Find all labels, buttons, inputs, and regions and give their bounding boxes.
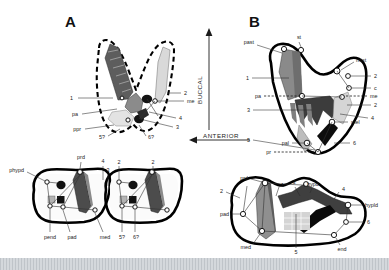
b-lower-node-med xyxy=(259,228,264,233)
b-upper-node-st xyxy=(298,47,303,52)
figure-canvas: A B BUCCAL ANTERIOR xyxy=(0,0,389,270)
a-lower-left-square-black xyxy=(57,196,65,204)
label-b-u-5: 5 xyxy=(247,137,250,143)
anterior-label: ANTERIOR xyxy=(203,132,239,139)
label-b-u-4: 4 xyxy=(371,115,374,121)
label-b-u-mtst: mtst xyxy=(356,57,367,63)
b-lower-node-prd xyxy=(262,180,268,186)
label-b-l-6: 6 xyxy=(367,219,370,225)
b-lower-node-end xyxy=(331,232,336,237)
label-a-l-6q: 6? xyxy=(133,234,139,240)
a-lower-left-node-pad xyxy=(61,205,65,209)
a-lower-left-node-phypd xyxy=(45,180,49,184)
panel-a-lower-right-crown xyxy=(105,169,182,223)
label-b-u-pr: pr xyxy=(266,149,271,155)
a-lower-right-cuspule-dark xyxy=(128,181,137,189)
label-a-u-me: me xyxy=(187,98,195,104)
panel-a-lower-left-crown xyxy=(33,169,110,223)
a-lower-left-node-med xyxy=(93,208,97,212)
label-b-l-med: med xyxy=(241,244,252,250)
label-a-l-pend: pend xyxy=(44,234,56,240)
label-b-u-c: c xyxy=(374,85,377,91)
label-a-l-2b: 2 xyxy=(152,159,155,165)
label-b-u-2b: 2 xyxy=(374,102,377,108)
label-a-u-4: 4 xyxy=(179,115,182,121)
label-a-l-pad: pad xyxy=(68,234,77,240)
b-lower-node-6 xyxy=(344,220,349,225)
label-b-u-me: me xyxy=(370,93,378,99)
label-a-l-prd: prd xyxy=(77,154,85,160)
a-lower-left-node-prd xyxy=(78,170,83,175)
label-a-u-6q: 6? xyxy=(148,134,154,140)
label-b-u-3: 3 xyxy=(247,107,250,113)
b-upper-node-past xyxy=(281,46,286,51)
label-a-u-ppr: ppr xyxy=(73,126,81,132)
label-a-l-med: med xyxy=(100,234,111,240)
label-a-l-phypd: phypd xyxy=(9,167,24,173)
label-a-u-2: 2 xyxy=(184,90,187,96)
label-b-l-pad: pad xyxy=(220,211,229,217)
figure-svg: A B BUCCAL ANTERIOR xyxy=(0,0,389,270)
b-upper-node-2a xyxy=(346,74,351,79)
b-lower-basin-shade xyxy=(284,212,310,230)
label-b-l-hypld: hypld xyxy=(365,202,378,208)
label-b-u-6: 6 xyxy=(353,140,356,146)
label-b-l-end: end xyxy=(338,246,347,252)
label-b-l-5: 5 xyxy=(295,249,298,255)
label-b-l-3: 3 xyxy=(293,179,296,185)
a-lower-right-node-3 xyxy=(133,205,137,209)
a-lower-left-node-pend xyxy=(48,204,52,208)
label-a-l-5q: 5? xyxy=(119,234,125,240)
label-a-l-3: 3 xyxy=(107,167,110,173)
label-a-u-pa: pa xyxy=(72,111,78,117)
buccal-label: BUCCAL xyxy=(196,76,203,104)
b-lower-node-pad xyxy=(240,211,245,216)
label-a-l-2a: 2 xyxy=(118,159,121,165)
label-b-u-1: 1 xyxy=(246,75,249,81)
label-b-l-1: 1 xyxy=(281,182,284,188)
footer-bar xyxy=(0,258,389,270)
panel-letter-b: B xyxy=(249,13,260,30)
a-upper-node-pa xyxy=(120,96,124,100)
a-lower-right-node-4 xyxy=(150,170,155,175)
label-a-u-1: 1 xyxy=(70,95,73,101)
a-lower-right-node-1 xyxy=(117,180,121,184)
label-b-u-2a: 2 xyxy=(374,73,377,79)
label-b-l-hypd: hypd xyxy=(307,181,319,187)
label-a-l-4: 4 xyxy=(102,158,105,164)
label-b-u-mel: mel xyxy=(351,119,360,125)
a-upper-node-ppr xyxy=(126,118,130,122)
label-a-u-3: 3 xyxy=(176,124,179,130)
label-b-l-prd: prd xyxy=(240,175,248,181)
label-b-u-st: st xyxy=(297,34,302,40)
label-a-u-5q: 5? xyxy=(99,134,105,140)
label-b-u-pa: pa xyxy=(255,93,261,99)
label-b-u-past: past xyxy=(244,39,255,45)
b-lower-node-hypld xyxy=(345,202,351,208)
label-b-l-4: 4 xyxy=(342,186,345,192)
panel-letter-a: A xyxy=(65,13,76,30)
a-lower-left-cuspule-dark xyxy=(56,181,65,189)
a-lower-right-square-black xyxy=(129,196,137,204)
a-lower-right-node-5 xyxy=(165,208,169,212)
a-lower-right-node-2 xyxy=(120,204,124,208)
label-b-l-2: 2 xyxy=(220,188,223,194)
